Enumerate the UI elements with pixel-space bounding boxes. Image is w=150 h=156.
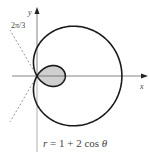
dashed-ray-2pi-3 — [10, 30, 37, 76]
x-axis-arrow-icon — [141, 74, 148, 79]
angle-label: 2π/3 — [11, 21, 25, 30]
y-axis-label: y — [27, 8, 32, 17]
equation-body: = 1 + 2 cos — [47, 137, 102, 149]
equation-theta: θ — [102, 137, 108, 149]
equation-label: r = 1 + 2 cos θ — [43, 137, 108, 149]
x-axis-label: x — [139, 82, 144, 91]
y-axis-arrow-icon — [35, 7, 40, 14]
polar-curve-figure: y x 2π/3 r = 1 + 2 cos θ — [0, 0, 150, 156]
dashed-ray-4pi-3 — [10, 76, 37, 122]
